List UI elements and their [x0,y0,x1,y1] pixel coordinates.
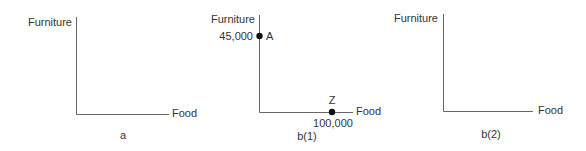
panel-b2-axes [444,14,534,112]
panel-a-y-axis-label: Furniture [28,16,72,28]
point-a-marker [256,33,262,39]
panel-b2-caption: b(2) [481,128,501,140]
point-z-name-label: Z [329,94,336,106]
panel-b2-x-axis-label: Food [538,104,563,116]
panel-a-x-axis-label: Food [172,107,197,119]
panel-a-caption: a [120,129,126,141]
panel-b1-caption: b(1) [297,130,317,142]
panel-b1-y-axis-label: Furniture [211,13,255,25]
point-z-value-label: 100,000 [313,117,353,129]
point-a-name-label: A [266,30,273,42]
panel-a-axes [77,17,170,115]
point-a-value-label: 45,000 [219,30,253,42]
point-z-marker [329,109,335,115]
panel-b2-y-axis-label: Furniture [394,12,438,24]
panel-b1-x-axis-label: Food [356,105,381,117]
